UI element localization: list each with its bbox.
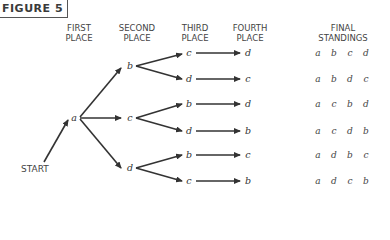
standing-cell: d (363, 99, 369, 109)
node-fourth-place: b (245, 125, 251, 136)
standing-cell: c (347, 176, 352, 186)
standing-cell: c (331, 99, 336, 109)
node-second-place: b (127, 60, 133, 71)
standing-cell: d (363, 48, 369, 58)
node-third-place: d (186, 125, 192, 136)
node-third-place: d (186, 73, 192, 84)
standing-cell: a (315, 48, 320, 58)
node-third-place: c (186, 47, 191, 58)
standing-cell: c (347, 48, 352, 58)
standing-cell: d (331, 176, 337, 186)
standing-cell: d (331, 150, 337, 160)
standing-cell: a (315, 176, 320, 186)
standing-cell: b (347, 150, 353, 160)
node-fourth-place: c (245, 73, 250, 84)
start-label: START (21, 164, 49, 174)
standing-cell: d (347, 126, 353, 136)
standing-cell: c (363, 150, 368, 160)
standing-cell: b (331, 74, 337, 84)
standing-cell: a (315, 150, 320, 160)
node-third-place: b (186, 149, 192, 160)
standing-cell: b (363, 126, 369, 136)
node-third-place: b (186, 98, 192, 109)
standing-cell: a (315, 74, 320, 84)
standing-cell: b (331, 48, 337, 58)
edge-start-a (44, 120, 68, 162)
node-fourth-place: d (245, 98, 251, 109)
standing-cell: c (363, 74, 368, 84)
node-fourth-place: b (245, 175, 251, 186)
node-second-place: d (127, 162, 133, 173)
edge-a-b (80, 68, 121, 117)
standing-cell: c (331, 126, 336, 136)
node-third-place: c (186, 175, 191, 186)
node-fourth-place: c (245, 149, 250, 160)
standing-cell: d (347, 74, 353, 84)
standing-cell: b (363, 176, 369, 186)
node-second-place: c (127, 112, 132, 123)
standing-cell: b (347, 99, 353, 109)
standing-cell: a (315, 126, 320, 136)
standing-cell: a (315, 99, 320, 109)
node-fourth-place: d (245, 47, 251, 58)
edge-a-d (80, 119, 121, 168)
node-first-place: a (71, 112, 77, 123)
